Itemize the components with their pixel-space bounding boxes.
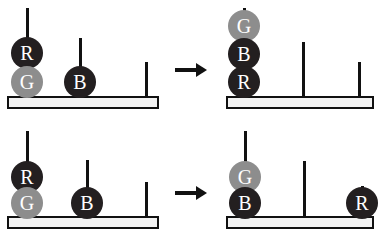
peg-2-bottom-right	[303, 161, 306, 216]
disc-b-bottom-right[interactable]: B	[229, 187, 261, 219]
hanoi-figure: RGBGBRRGBGBR	[0, 0, 387, 239]
disc-label: G	[238, 167, 252, 187]
disc-label: R	[355, 193, 368, 213]
disc-r-bottom-right[interactable]: R	[346, 187, 378, 219]
disc-label: B	[238, 193, 251, 213]
arrow-head	[196, 186, 207, 200]
arrow-shaft	[175, 191, 197, 195]
arrow-shaft	[175, 68, 197, 72]
arrow-head	[196, 63, 207, 77]
panel-bottom-right: GBR	[0, 0, 387, 239]
